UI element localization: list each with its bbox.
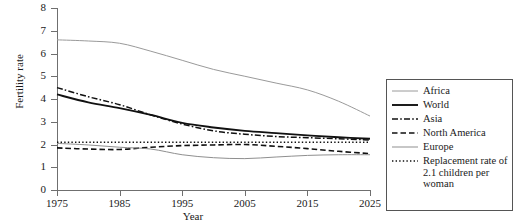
fertility-rate-chart: 012345678 197519851995200520152025 Ferti… (0, 0, 529, 222)
legend-line-swatch (392, 141, 418, 152)
legend-item: Europe (392, 141, 508, 153)
legend-item-label: Asia (423, 113, 442, 125)
legend-item-label: World (423, 99, 449, 111)
legend-item-label: Africa (423, 85, 450, 97)
legend-item: North America (392, 127, 508, 139)
chart-legend: AfricaWorldAsiaNorth AmericaEuropeReplac… (386, 79, 513, 211)
legend-line-swatch (392, 155, 418, 166)
legend-line-swatch (392, 85, 418, 96)
legend-item: Africa (392, 85, 508, 97)
legend-item: World (392, 99, 508, 111)
legend-line-swatch (392, 99, 418, 110)
legend-item: Replacement rate of 2.1 children per wom… (392, 155, 508, 190)
legend-item-label: North America (423, 127, 486, 139)
legend-item: Asia (392, 113, 508, 125)
legend-line-swatch (392, 127, 418, 138)
legend-line-swatch (392, 113, 418, 124)
legend-item-label: Europe (423, 141, 453, 153)
legend-item-label: Replacement rate of 2.1 children per wom… (423, 155, 508, 190)
